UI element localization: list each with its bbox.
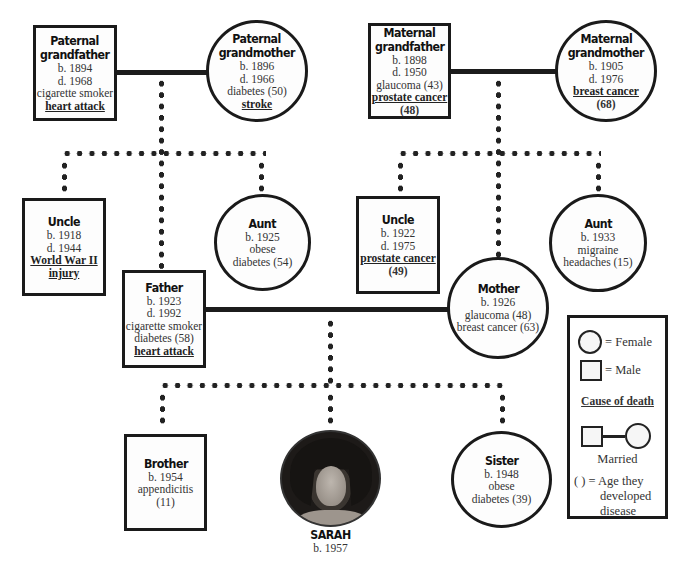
node-title: Aunt — [584, 217, 612, 231]
brother-node: Brother b. 1954 appendicitis (11) — [124, 434, 207, 531]
male-square-icon — [580, 360, 602, 381]
cause-age: (68) — [596, 98, 615, 111]
cause-of-death: prostate cancer — [360, 252, 435, 265]
marriage-line-paternal-grandparents — [116, 70, 208, 75]
condition: diabetes (54) — [233, 256, 293, 269]
birth-year: b. 1923 — [147, 295, 182, 308]
cause-of-death: World War II — [30, 254, 97, 267]
node-title: Uncle — [48, 215, 80, 229]
death-year: d. 1950 — [392, 66, 427, 79]
condition-age: (11) — [156, 496, 175, 509]
sibling-line-paternal — [61, 150, 266, 157]
descent-line-brother — [159, 392, 166, 428]
node-title: grandfather — [40, 48, 109, 62]
cause-age: (48) — [400, 104, 419, 117]
cause-of-death: injury — [49, 267, 80, 280]
legend-cause-of-death: Cause of death — [570, 394, 665, 409]
married-circle-icon — [625, 423, 651, 449]
birth-year: b. 1898 — [392, 54, 427, 67]
legend-male-label: = Male — [605, 363, 641, 378]
node-title: SARAH — [288, 528, 374, 542]
descent-line-children — [327, 318, 334, 386]
death-year: d. 1944 — [47, 242, 82, 255]
birth-year: b. 1933 — [581, 231, 616, 244]
condition: headaches (15) — [563, 256, 632, 269]
death-year: d. 1992 — [147, 307, 182, 320]
descent-line-maternal-aunt — [595, 160, 602, 196]
node-title: Paternal — [233, 32, 282, 46]
condition: obese — [249, 243, 275, 256]
legend-box: = Female = Male Cause of death Married (… — [567, 315, 668, 519]
birth-year: b. 1918 — [47, 229, 82, 242]
condition: breast cancer (63) — [457, 321, 539, 334]
legend-married-label: Married — [570, 452, 665, 467]
married-square-icon — [581, 426, 603, 447]
legend-married-symbol — [581, 423, 651, 449]
condition: cigarette smoker — [37, 87, 113, 100]
descent-line-sister — [499, 392, 506, 428]
node-title: Father — [145, 281, 182, 295]
cause-of-death: prostate cancer — [372, 91, 447, 104]
condition: obese — [488, 480, 514, 493]
condition: appendicitis — [138, 483, 194, 496]
descent-line-paternal-aunt — [258, 160, 265, 196]
legend-female: = Female — [578, 330, 652, 354]
birth-year: b. 1948 — [484, 468, 519, 481]
sarah-caption: SARAH b. 1957 — [280, 528, 381, 555]
node-title: Mother — [477, 282, 519, 296]
maternal-grandfather-node: Maternal grandfather b. 1898 d. 1950 gla… — [368, 23, 451, 119]
father-node: Father b. 1923 d. 1992 cigarette smoker … — [122, 270, 206, 368]
paternal-grandfather-node: Paternal grandfather b. 1894 d. 1968 cig… — [33, 25, 117, 121]
node-title: grandmother — [568, 46, 644, 60]
maternal-grandmother-node: Maternal grandmother b. 1905 d. 1976 bre… — [555, 20, 657, 122]
cause-of-death: heart attack — [134, 345, 194, 358]
cause-age: (49) — [388, 265, 407, 278]
birth-year: b. 1894 — [58, 62, 93, 75]
death-year: d. 1968 — [58, 75, 93, 88]
condition: migraine — [578, 244, 619, 257]
node-title: grandmother — [219, 46, 295, 60]
legend-age-line-3: disease — [600, 504, 670, 519]
condition: cigarette smoker — [126, 320, 202, 333]
cause-of-death: heart attack — [45, 100, 105, 113]
maternal-aunt-node: Aunt b. 1933 migraine headaches (15) — [549, 194, 647, 292]
node-title: Maternal — [384, 26, 436, 40]
birth-year: b. 1922 — [381, 227, 416, 240]
condition: glaucoma (43) — [376, 79, 443, 92]
node-title: Paternal — [51, 34, 100, 48]
legend-female-label: = Female — [605, 335, 652, 350]
marriage-line-parents — [205, 307, 451, 312]
sister-node: Sister b. 1948 obese diabetes (39) — [451, 431, 552, 528]
node-title: Sister — [485, 454, 518, 468]
node-title: grandfather — [375, 40, 444, 54]
paternal-uncle-node: Uncle b. 1918 d. 1944 World War II injur… — [22, 198, 106, 296]
cause-of-death: stroke — [242, 98, 272, 111]
birth-year: b. 1926 — [481, 296, 516, 309]
photo-shoulders — [296, 510, 368, 527]
birth-year: b. 1957 — [280, 542, 381, 555]
descent-line-paternal-uncle — [61, 160, 68, 196]
legend-age-line-1: ( ) = Age they — [574, 474, 665, 489]
married-line-icon — [603, 435, 625, 438]
descent-line-sarah — [327, 392, 334, 428]
marriage-line-maternal-grandparents — [450, 69, 557, 74]
condition: diabetes (50) — [227, 85, 287, 98]
sibling-line-children — [159, 382, 505, 389]
paternal-grandmother-node: Paternal grandmother b. 1896 d. 1966 dia… — [206, 20, 308, 122]
node-title: Uncle — [382, 213, 414, 227]
sibling-line-maternal — [397, 150, 601, 157]
descent-line-maternal-uncle — [397, 160, 404, 196]
condition: diabetes (39) — [472, 493, 532, 506]
cause-of-death: breast cancer — [573, 85, 639, 98]
node-title: Aunt — [249, 217, 277, 231]
photo-face — [316, 466, 346, 506]
legend-age-line-2: developed — [600, 489, 670, 504]
condition: glaucoma (48) — [465, 309, 532, 322]
descent-line-paternal — [158, 78, 165, 273]
sarah-photo — [280, 430, 381, 527]
death-year: d. 1976 — [589, 73, 624, 86]
female-circle-icon — [578, 330, 602, 354]
condition: diabetes (58) — [134, 332, 194, 345]
birth-year: b. 1896 — [240, 60, 275, 73]
death-year: d. 1975 — [381, 240, 416, 253]
